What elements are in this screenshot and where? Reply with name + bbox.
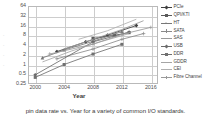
x-axis-tick-label: 2016: [145, 85, 157, 90]
data-point-marker: [120, 37, 124, 41]
chart-canvas: 64321684210.50.25---- 200020042008201220…: [0, 0, 211, 101]
x-axis-tick-label: 2008: [87, 85, 99, 90]
figure-caption: pin data rate vs. Year for a variety of …: [0, 107, 211, 114]
data-point-marker: [142, 32, 146, 36]
legend-item-label: Fibre Channel: [174, 75, 202, 80]
legend-item-label: CEI: [174, 67, 182, 72]
legend-swatch-icon: [161, 74, 172, 81]
x-axis-tick-label: 2004: [58, 85, 70, 90]
legend-item-label: SAS: [174, 36, 183, 41]
legend-item-ddr[interactable]: DDR: [161, 51, 183, 59]
y-axis: 64321684210.50.25----: [0, 0, 28, 92]
legend-item-pcie[interactable]: PCIe: [161, 4, 184, 12]
y-axis-artifact-mark: -: [3, 53, 4, 57]
y-axis-tick-label: 32: [20, 13, 26, 18]
legend-swatch-icon: [161, 51, 172, 58]
x-axis-tick-label: 2012: [116, 85, 128, 90]
data-point-marker: [91, 47, 95, 51]
legend-item-label: USB: [174, 44, 183, 49]
legend-item-sata[interactable]: SATA: [161, 27, 185, 35]
legend-item-label: PCIe: [174, 5, 184, 10]
legend-item-qpi-kti[interactable]: QPI/KTI: [161, 12, 190, 20]
series-line: [42, 32, 121, 58]
legend-item-label: SATA: [174, 29, 185, 34]
y-axis-tick-label: 64: [20, 3, 26, 8]
y-axis-tick-label: 16: [20, 23, 26, 28]
x-axis-title: Year: [0, 93, 158, 99]
data-point-marker: [120, 43, 123, 46]
legend-item-sas[interactable]: SAS: [161, 35, 183, 43]
legend-item-label: DDR: [174, 52, 184, 57]
chart-legend: PCIeQPI/KTIHTSATASASUSBDDRGDDRCEIFibre C…: [161, 4, 211, 84]
data-point-marker: [34, 76, 37, 79]
y-axis-artifact-mark: -: [3, 63, 4, 67]
series-line: [35, 44, 122, 77]
series-line: [64, 21, 143, 49]
y-axis-artifact-mark: -: [3, 33, 4, 37]
legend-item-cei[interactable]: CEI: [161, 66, 181, 74]
y-axis-tick-label: 8: [23, 33, 26, 38]
legend-swatch-icon: [161, 4, 172, 11]
legend-swatch-icon: [161, 66, 172, 73]
y-axis-artifact-mark: -: [3, 43, 4, 47]
legend-swatch-icon: [161, 59, 172, 66]
series-line: [42, 34, 129, 62]
data-point-marker: [63, 63, 66, 66]
legend-swatch-icon: [161, 12, 172, 19]
legend-item-gddr[interactable]: GDDR: [161, 58, 187, 66]
data-point-marker: [55, 57, 59, 61]
legend-swatch-icon: [161, 43, 172, 50]
legend-item-ht[interactable]: HT: [161, 20, 180, 28]
y-axis-tick-label: 4: [23, 42, 26, 47]
x-axis-tick-label: 2000: [29, 85, 41, 90]
legend-swatch-icon: [161, 28, 172, 35]
y-axis-tick-label: 2: [23, 52, 26, 57]
data-point-marker: [92, 53, 95, 56]
legend-item-usb[interactable]: USB: [161, 43, 183, 51]
y-axis-tick-label: 0.5: [19, 72, 26, 77]
data-point-marker: [149, 26, 153, 30]
legend-item-label: QPI/KTI: [174, 13, 190, 18]
figure-container: 64321684210.50.25---- 200020042008201220…: [0, 0, 211, 122]
y-axis-tick-label: 1: [23, 62, 26, 67]
series-layer: [28, 6, 158, 84]
legend-item-label: HT: [174, 21, 180, 26]
legend-item-label: GDDR: [174, 60, 187, 65]
legend-swatch-icon: [161, 20, 172, 27]
legend-item-fibre-channel[interactable]: Fibre Channel: [161, 74, 202, 82]
legend-swatch-icon: [161, 35, 172, 42]
